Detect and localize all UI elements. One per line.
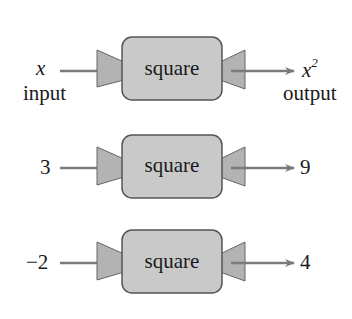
machine-label: square [122, 58, 222, 79]
input-value: −2 [26, 252, 48, 273]
output-funnel-icon [220, 242, 245, 281]
output-value: x2 [302, 58, 318, 81]
output-caption: output [283, 83, 337, 104]
input-funnel-icon [97, 242, 124, 280]
output-funnel-icon [220, 50, 245, 89]
output-value: 9 [300, 157, 311, 178]
machine-label: square [122, 251, 222, 272]
machine-label: square [122, 155, 222, 176]
input-funnel-icon [97, 147, 124, 185]
output-value: 4 [300, 252, 311, 273]
output-exponent: 2 [311, 55, 318, 70]
input-value: 3 [40, 157, 51, 178]
input-funnel-icon [97, 50, 124, 87]
input-caption: input [23, 83, 66, 104]
output-funnel-icon [220, 147, 245, 186]
input-value: x [36, 58, 45, 79]
